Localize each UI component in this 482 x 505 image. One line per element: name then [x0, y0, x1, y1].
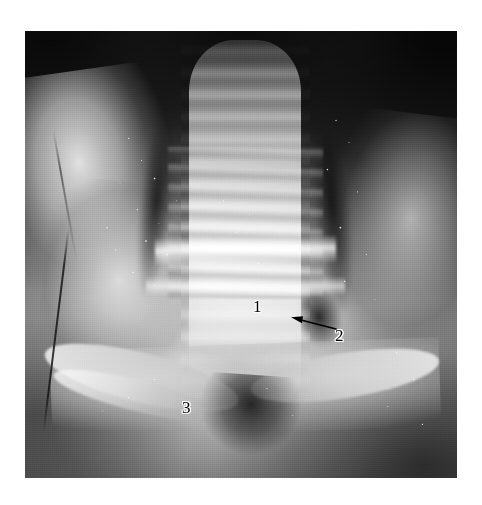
anatomical-photograph [25, 31, 457, 478]
photo-softening [25, 31, 457, 478]
annotation-label-3: 3 [182, 399, 191, 416]
annotation-label-1: 1 [253, 298, 262, 315]
figure-page: 1 2 3 [0, 0, 482, 505]
annotation-label-2: 2 [335, 327, 344, 344]
